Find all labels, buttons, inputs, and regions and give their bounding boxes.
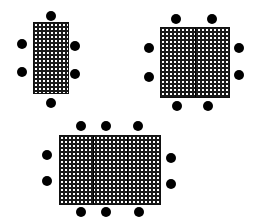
chair-icon [133,121,143,131]
chair-icon [76,207,86,217]
chair-icon [17,39,27,49]
chair-icon [171,14,181,24]
chair-icon [234,70,244,80]
chair-icon [101,121,111,131]
chair-icon [144,72,154,82]
chair-icon [101,207,111,217]
chair-icon [70,41,80,51]
chair-icon [172,101,182,111]
table [160,27,230,98]
chair-icon [46,98,56,108]
table-section-divider [93,136,94,204]
chair-icon [42,150,52,160]
chair-icon [203,101,213,111]
chair-icon [76,121,86,131]
chair-icon [46,11,56,21]
chair-icon [134,207,144,217]
chair-icon [42,176,52,186]
chair-icon [166,179,176,189]
table-section-divider [195,28,196,97]
table [33,22,69,94]
chair-icon [234,43,244,53]
chair-icon [166,153,176,163]
table [59,135,161,205]
chair-icon [17,67,27,77]
table-section-divider [127,136,128,204]
chair-icon [144,43,154,53]
chair-icon [207,14,217,24]
chair-icon [70,69,80,79]
